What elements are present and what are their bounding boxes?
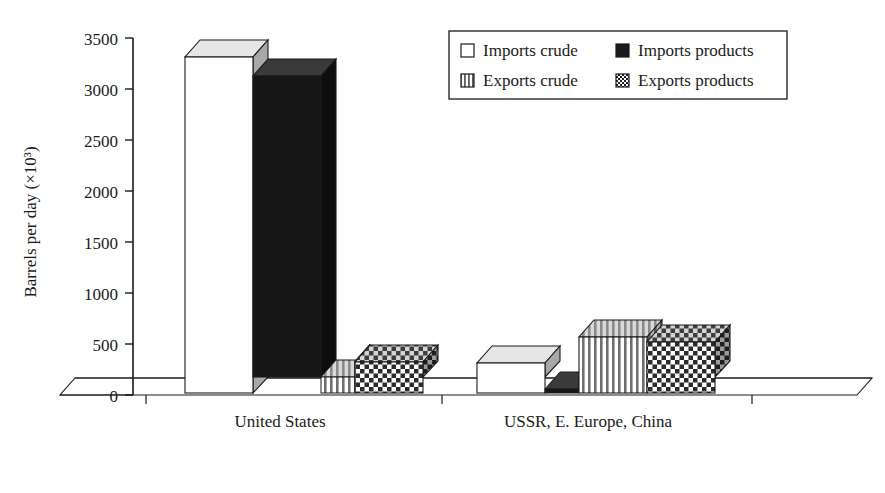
x-axis: United States USSR, E. Europe, China <box>146 395 752 431</box>
legend-swatch-checker-icon <box>616 74 629 87</box>
bar-us-imports-products <box>253 59 336 377</box>
x-category-label-ussr-e-europe-china: USSR, E. Europe, China <box>504 412 673 431</box>
legend-label-exports-crude: Exports crude <box>483 71 578 90</box>
legend-label-imports-crude: Imports crude <box>483 41 578 60</box>
y-tick-label-2000: 2000 <box>84 183 118 202</box>
bar-chart-svg: 3500 3000 2500 2000 1500 1000 500 0 Barr… <box>0 0 885 493</box>
y-axis-ticks <box>125 38 133 395</box>
legend-label-imports-products: Imports products <box>638 41 754 60</box>
legend-swatch-striped-icon <box>461 74 474 87</box>
y-tick-label-2500: 2500 <box>84 132 118 151</box>
y-tick-label-0: 0 <box>110 387 119 406</box>
y-tick-label-1000: 1000 <box>84 285 118 304</box>
y-axis-title: Barrels per day (×10³) <box>21 146 40 297</box>
legend-label-exports-products: Exports products <box>638 71 754 90</box>
chart-figure: 3500 3000 2500 2000 1500 1000 500 0 Barr… <box>0 0 885 493</box>
floor-plane <box>60 378 872 395</box>
y-tick-label-3500: 3500 <box>84 30 118 49</box>
y-tick-label-500: 500 <box>93 336 119 355</box>
legend-swatch-black-icon <box>616 44 629 57</box>
y-tick-label-3000: 3000 <box>84 81 118 100</box>
y-axis: 3500 3000 2500 2000 1500 1000 500 0 Barr… <box>21 30 133 406</box>
legend-swatch-white-icon <box>461 44 474 57</box>
chart-legend: Imports crude Imports products Exports c… <box>449 31 787 99</box>
x-category-label-united-states: United States <box>234 412 325 431</box>
y-tick-label-1500: 1500 <box>84 234 118 253</box>
